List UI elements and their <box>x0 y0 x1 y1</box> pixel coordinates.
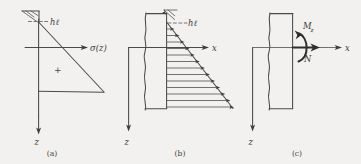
z-axis-label-a: z <box>34 137 40 147</box>
z-axis-label-b: z <box>124 137 130 147</box>
sigma-axis-label-a: σ(z) <box>90 43 107 53</box>
wall-left-wavy-edge-b <box>144 13 146 110</box>
z-axis-label-c: z <box>248 137 254 147</box>
caption-c: (c) <box>292 149 302 158</box>
panel-b: hℓ z x <box>124 10 235 158</box>
x-axis-arrow-b <box>129 45 209 50</box>
caption-a: (a) <box>47 149 57 158</box>
x-axis-label-c: x <box>345 43 350 53</box>
moment-subscript-label-c: z <box>310 27 315 33</box>
ground-surface-hatch-icon-b <box>162 10 177 20</box>
head-label-b: hℓ <box>188 18 197 28</box>
distribution-base-line-a <box>39 91 104 92</box>
caption-b: (b) <box>175 149 186 158</box>
stress-distribution-line-a <box>39 22 104 92</box>
sigma-axis-arrow-a <box>25 45 88 50</box>
wall-left-wavy-edge-c <box>268 13 270 110</box>
x-axis-label-b: x <box>212 43 217 53</box>
engineering-sketch-figure: z hℓ σ(z) + (a) <box>0 0 361 164</box>
figure-svg: z hℓ σ(z) + (a) <box>0 0 361 164</box>
panel-a: z hℓ σ(z) + (a) <box>22 11 107 158</box>
head-label-a: hℓ <box>50 17 59 27</box>
sign-label-a: + <box>54 65 62 75</box>
panel-c: z x N M z (c) <box>248 13 351 158</box>
moment-arrow-c <box>295 31 307 62</box>
z-axis-arrow-a <box>36 116 41 135</box>
